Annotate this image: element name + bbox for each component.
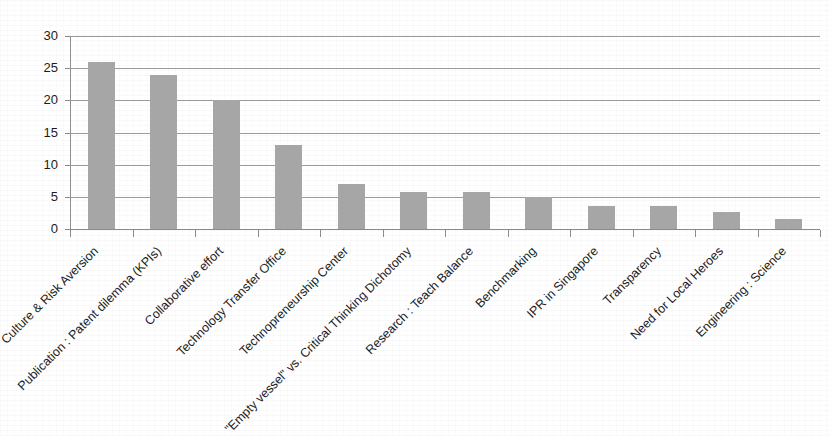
x-tick	[320, 230, 321, 237]
bar[interactable]	[275, 145, 302, 229]
gridline-5	[70, 197, 820, 198]
bar[interactable]	[525, 197, 552, 229]
x-tick	[508, 230, 509, 237]
x-tick	[383, 230, 384, 237]
bar[interactable]	[400, 192, 427, 229]
x-tick	[570, 230, 571, 237]
gridline-25	[70, 68, 820, 69]
x-tick	[758, 230, 759, 237]
x-tick	[633, 230, 634, 237]
y-tick-label-10: 10	[18, 158, 58, 171]
y-tick-label-0: 0	[18, 222, 58, 235]
bar[interactable]	[463, 192, 490, 229]
bar[interactable]	[775, 219, 802, 229]
plot-area	[70, 36, 820, 229]
bar[interactable]	[650, 206, 677, 229]
bar[interactable]	[588, 206, 615, 229]
x-tick	[258, 230, 259, 237]
x-tick	[133, 230, 134, 237]
bar-chart: 051015202530 Culture & Risk AversionPubl…	[0, 0, 830, 436]
bar[interactable]	[713, 212, 740, 229]
y-tick-label-30: 30	[18, 29, 58, 42]
gridline-30	[70, 36, 820, 37]
y-tick-label-5: 5	[18, 190, 58, 203]
bar[interactable]	[88, 62, 115, 229]
bar[interactable]	[213, 100, 240, 229]
gridline-15	[70, 133, 820, 134]
x-tick	[70, 230, 71, 237]
bar[interactable]	[150, 75, 177, 229]
y-tick-label-15: 15	[18, 126, 58, 139]
x-tick	[195, 230, 196, 237]
x-axis-ticks	[70, 230, 820, 238]
x-category-label[interactable]: Culture & Risk Aversion	[0, 245, 101, 436]
bar[interactable]	[338, 184, 365, 229]
x-tick	[445, 230, 446, 237]
x-tick	[820, 230, 821, 237]
y-tick-label-20: 20	[18, 93, 58, 106]
y-tick-label-25: 25	[18, 61, 58, 74]
x-tick	[695, 230, 696, 237]
gridline-20	[70, 100, 820, 101]
gridline-10	[70, 165, 820, 166]
